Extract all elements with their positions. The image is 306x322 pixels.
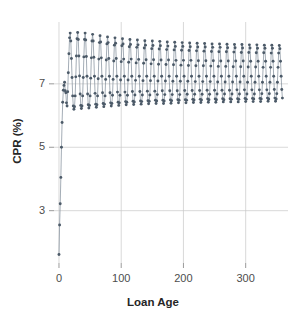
- y-tick-label: 7: [21, 77, 45, 89]
- tick-marks: [49, 84, 246, 268]
- x-tick-label: 0: [39, 272, 79, 284]
- y-tick-label: 3: [21, 204, 45, 216]
- x-tick-label: 100: [101, 272, 141, 284]
- gridlines: [54, 22, 288, 263]
- data-series-layer: [58, 31, 284, 256]
- y-tick-label: 5: [21, 140, 45, 152]
- cpr-loan-age-chart: 3 5 7 0 100 200 300 Loan Age CPR (%): [0, 0, 306, 322]
- y-axis-title: CPR (%): [11, 81, 23, 201]
- x-axis-title: Loan Age: [0, 296, 306, 308]
- x-tick-label: 200: [163, 272, 203, 284]
- x-tick-label: 300: [226, 272, 266, 284]
